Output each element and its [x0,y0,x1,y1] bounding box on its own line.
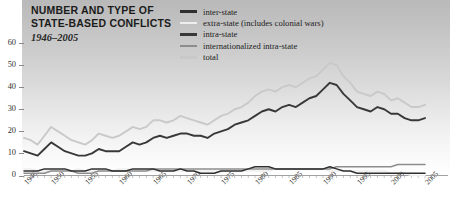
series-line-internationalized [24,164,425,173]
chart-container: NUMBER AND TYPE OF STATE-BASED CONFLICTS… [0,0,450,203]
series-line-total [24,63,425,145]
series-line-extra-state [24,169,425,176]
chart-plot-area [0,0,450,203]
